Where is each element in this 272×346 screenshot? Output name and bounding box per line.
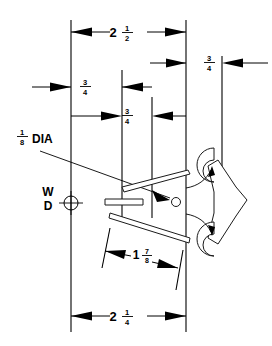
callout-dia-denominator: 8	[20, 138, 24, 147]
dimension-right-spacing: 3 4	[150, 54, 268, 73]
arrowhead-right-spacing	[166, 59, 186, 68]
arrowhead-top-right	[165, 28, 186, 37]
wd-marker: W D	[42, 185, 83, 215]
dim-top-whole: 2	[109, 25, 116, 40]
blade-slot-upper	[122, 170, 190, 192]
center-hole	[172, 198, 181, 207]
arrowhead-angled-right	[157, 259, 178, 268]
dim-left-numerator: 3	[83, 78, 87, 87]
dimension-center-spacing: 3 4	[71, 107, 186, 126]
dim-right-denominator: 4	[207, 64, 212, 73]
arrowhead-angled-left	[105, 250, 126, 259]
dim-bottom-denominator: 4	[125, 318, 130, 327]
part-geometry	[105, 148, 247, 256]
dim-angled-whole: 1	[133, 248, 140, 262]
dim-top-numerator: 1	[125, 24, 129, 33]
dim-center-denominator: 4	[125, 117, 130, 126]
arrowhead-top-left	[71, 28, 92, 37]
blade-slot-middle	[105, 199, 143, 205]
dim-center-numerator: 3	[125, 107, 129, 116]
wd-marker-line1: W	[42, 185, 54, 199]
dimension-top-overall: 2 1 2	[71, 24, 186, 43]
dim-right-numerator: 3	[207, 54, 211, 63]
dim-bottom-numerator: 1	[125, 308, 129, 317]
wd-marker-line2: D	[44, 199, 53, 213]
arrowhead-center-left	[101, 112, 122, 121]
arrowhead-left-spacing	[50, 83, 71, 92]
dimension-bottom-overall: 2 1 4	[71, 308, 186, 327]
arrowhead-bottom-left	[71, 312, 92, 321]
technical-drawing-canvas: 2 1 2 3 4 3 4 3	[0, 0, 272, 346]
dim-left-denominator: 4	[83, 88, 88, 97]
dim-angled-numerator: 7	[145, 248, 149, 255]
crosshair-circle-icon	[59, 191, 83, 215]
dim-bottom-whole: 2	[109, 309, 116, 324]
dimension-left-spacing: 3 4	[32, 78, 152, 97]
callout-arrowhead	[152, 190, 170, 202]
ext-line-angled-left	[102, 228, 110, 268]
ext-line-angled-right	[176, 250, 183, 290]
callout-dia-numerator: 1	[20, 128, 24, 137]
arrowhead-far-right	[222, 59, 243, 68]
arrowhead-center-right	[152, 112, 173, 121]
extension-lines	[71, 20, 222, 332]
callout-dia-leader-line	[40, 151, 170, 198]
callout-dia-text: DIA	[32, 132, 53, 146]
arrowhead-left-spacing-2	[122, 83, 143, 92]
blade-slot-lower	[109, 213, 190, 243]
engineering-drawing: 2 1 2 3 4 3 4 3	[0, 0, 272, 346]
dim-angled-denominator: 8	[145, 257, 149, 264]
dim-top-denominator: 2	[125, 34, 129, 43]
callout-dia: 1 8 DIA	[17, 128, 170, 198]
arrowhead-bottom-right	[165, 312, 186, 321]
